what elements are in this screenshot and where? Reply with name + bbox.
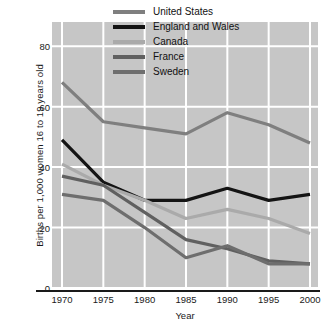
legend-item[interactable]: France — [113, 50, 239, 63]
y-axis-tick-labels: 020406080 — [20, 22, 50, 288]
x-axis-title: Year — [52, 310, 318, 321]
legend-item-label: Sweden — [153, 65, 189, 78]
x-tick-label: 1980 — [123, 294, 167, 305]
legend-item-label: England and Wales — [153, 20, 239, 33]
y-tick-label: 80 — [20, 41, 50, 52]
legend-item-label: Canada — [153, 35, 188, 48]
y-tick-label: 60 — [20, 101, 50, 112]
y-tick-label: 40 — [20, 162, 50, 173]
x-tick-label: 1970 — [40, 294, 84, 305]
x-axis-line — [36, 290, 320, 292]
x-tick-label: 1975 — [81, 294, 125, 305]
legend-swatch-icon — [113, 70, 145, 74]
x-axis-tick-labels: 1970197519801985199019952000 — [52, 294, 318, 310]
legend-swatch-icon — [113, 25, 145, 29]
chart-figure: Births per 1,000 women 16 to 19 years ol… — [0, 0, 328, 336]
x-tick-label: 2000 — [288, 294, 328, 305]
chart-legend: United StatesEngland and WalesCanadaFran… — [113, 5, 239, 78]
legend-item-label: United States — [153, 5, 213, 18]
legend-swatch-icon — [113, 10, 145, 14]
legend-item[interactable]: United States — [113, 5, 239, 18]
legend-swatch-icon — [113, 55, 145, 59]
y-tick-label: 20 — [20, 222, 50, 233]
x-tick-label: 1995 — [247, 294, 291, 305]
legend-item[interactable]: Sweden — [113, 65, 239, 78]
legend-item[interactable]: England and Wales — [113, 20, 239, 33]
x-tick-label: 1990 — [205, 294, 249, 305]
legend-swatch-icon — [113, 40, 145, 44]
legend-item-label: France — [153, 50, 184, 63]
legend-item[interactable]: Canada — [113, 35, 239, 48]
x-tick-label: 1985 — [164, 294, 208, 305]
